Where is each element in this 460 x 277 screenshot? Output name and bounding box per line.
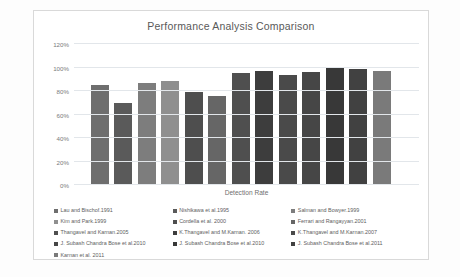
bar[interactable] (255, 71, 273, 185)
bar-slot (159, 44, 183, 185)
bar-slot (112, 44, 136, 185)
y-axis-tick: 0% (60, 182, 69, 189)
x-axis-label: Detection Rate (74, 189, 419, 196)
bar[interactable] (185, 92, 203, 185)
bar[interactable] (349, 69, 367, 185)
legend-swatch-icon (54, 253, 58, 257)
bar-slot (276, 44, 300, 185)
bar-slot (370, 44, 394, 185)
bar[interactable] (138, 83, 156, 185)
bar-slot (347, 44, 371, 185)
legend-label: Thangavel and Karnan.2005 (61, 230, 129, 235)
legend-label: Cordella et al. 2000 (179, 219, 226, 224)
legend-swatch-icon (291, 220, 295, 224)
legend-label: K.Thangavel and M.Karnan.2007 (298, 230, 377, 235)
chart-legend: Lau and Bischof.1991Nishikawa et al.1995… (54, 205, 410, 261)
legend-swatch-icon (54, 209, 58, 213)
legend-swatch-icon (173, 209, 177, 213)
legend-swatch-icon (54, 242, 58, 246)
bar-slot (182, 44, 206, 185)
legend-swatch-icon (54, 220, 58, 224)
legend-item[interactable]: Lau and Bischof.1991 (54, 205, 173, 216)
bar[interactable] (279, 75, 297, 185)
bar-slot (206, 44, 230, 185)
legend-swatch-icon (173, 231, 177, 235)
gridline (74, 137, 419, 138)
legend-swatch-icon (173, 242, 177, 246)
legend-label: Nishikawa et al.1995 (179, 208, 229, 213)
legend-item[interactable]: Karnan et al. 2011 (54, 250, 173, 261)
y-axis-tick: 20% (57, 158, 69, 165)
bar-slot (323, 44, 347, 185)
legend-item[interactable]: Thangavel and Karnan.2005 (54, 227, 173, 238)
gridline (74, 114, 419, 115)
legend-label: Lau and Bischof.1991 (61, 208, 113, 213)
chart-container: Performance Analysis Comparison 120%100%… (33, 10, 429, 260)
chart-title: Performance Analysis Comparison (34, 20, 428, 32)
bar-slot (135, 44, 159, 185)
legend-label: K.Thangavel and M.Karnan. 2006 (179, 230, 260, 235)
chart-page: Performance Analysis Comparison 120%100%… (0, 0, 460, 277)
legend-label: Kim and Park.1999 (61, 219, 107, 224)
y-axis-tick: 60% (57, 111, 69, 118)
y-axis-tick: 120% (53, 41, 69, 48)
bar-group (74, 44, 419, 185)
bar[interactable] (373, 71, 391, 185)
legend-item[interactable]: J. Subash Chandra Bose et al.2010 (54, 239, 173, 250)
gridline (74, 161, 419, 162)
legend-label: Salman and Bowyer.1999 (298, 208, 359, 213)
legend-item[interactable]: Ferrari and Rangayyan.2001 (291, 216, 410, 227)
legend-item[interactable]: K.Thangavel and M.Karnan. 2006 (173, 227, 292, 238)
gridline (74, 67, 419, 68)
bar-slot (229, 44, 253, 185)
bar[interactable] (114, 103, 132, 185)
y-axis-tick: 100% (53, 64, 69, 71)
y-axis-tick: 40% (57, 135, 69, 142)
bar-slot (300, 44, 324, 185)
gridline (74, 184, 419, 185)
bar[interactable] (326, 68, 344, 186)
y-axis-tick: 80% (57, 88, 69, 95)
legend-swatch-icon (291, 209, 295, 213)
legend-label: J. Subash Chandra Bose et al.2010 (179, 241, 264, 246)
legend-item[interactable]: K.Thangavel and M.Karnan.2007 (291, 227, 410, 238)
legend-swatch-icon (291, 231, 295, 235)
legend-item[interactable]: Cordella et al. 2000 (173, 216, 292, 227)
legend-label: J. Subash Chandra Bose et al.2011 (298, 241, 383, 246)
legend-swatch-icon (291, 242, 295, 246)
legend-item[interactable]: Salman and Bowyer.1999 (291, 205, 410, 216)
legend-label: Ferrari and Rangayyan.2001 (298, 219, 367, 224)
bar-slot (88, 44, 112, 185)
legend-label: Karnan et al. 2011 (61, 253, 105, 258)
bar[interactable] (91, 85, 109, 185)
legend-item[interactable]: Nishikawa et al.1995 (173, 205, 292, 216)
legend-swatch-icon (173, 220, 177, 224)
legend-label: J. Subash Chandra Bose et al.2010 (61, 241, 146, 246)
legend-item[interactable]: Kim and Park.1999 (54, 216, 173, 227)
gridline (74, 43, 419, 44)
bar[interactable] (161, 81, 179, 185)
bar-slot (253, 44, 277, 185)
bar[interactable] (208, 96, 226, 185)
gridline (74, 90, 419, 91)
legend-swatch-icon (54, 231, 58, 235)
legend-item[interactable]: J. Subash Chandra Bose et al.2011 (291, 239, 410, 250)
legend-item[interactable]: J. Subash Chandra Bose et al.2010 (173, 239, 292, 250)
plot-area: 120%100%80%60%40%20%0% (74, 44, 419, 185)
